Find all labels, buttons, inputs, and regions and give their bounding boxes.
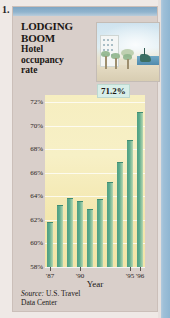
headline-line-2: BOOM — [21, 33, 93, 45]
y-axis-tick-label: 70% — [15, 122, 43, 130]
bar — [97, 199, 103, 267]
bar-cap — [127, 140, 133, 141]
figure-root: 1. LODGING BOOM Hotel occupancy rate — [0, 0, 170, 318]
y-axis-tick-label: 66% — [15, 169, 43, 177]
y-axis-tick-label: 62% — [15, 216, 43, 224]
x-axis-tick-label: '87 — [46, 272, 54, 280]
palm-trunk — [105, 56, 107, 69]
boat-icon — [140, 54, 151, 62]
y-axis-labels: 72%70%68%66%64%62%60%58% — [13, 95, 43, 267]
headline-sub-2: occupancy — [21, 55, 93, 66]
bar — [47, 222, 53, 267]
boat-mast — [144, 48, 145, 55]
bar-cap — [87, 209, 93, 210]
bar — [117, 162, 123, 267]
beach-hotel-illustration — [97, 23, 159, 81]
headline-sub-3: rate — [21, 65, 93, 76]
headline-block: LODGING BOOM Hotel occupancy rate — [21, 21, 93, 76]
bar — [57, 205, 63, 267]
item-number: 1. — [2, 4, 10, 15]
x-axis-tick-label: '96 — [136, 272, 144, 280]
plot-area — [45, 95, 145, 267]
bar-cap — [107, 182, 113, 183]
y-axis-tick-label: 72% — [15, 98, 43, 106]
headline-line-1: LODGING — [21, 21, 93, 33]
chart-panel: LODGING BOOM Hotel occupancy rate — [13, 7, 157, 311]
x-axis-tick — [50, 267, 51, 271]
bar — [127, 140, 133, 267]
headline-sub-1: Hotel — [21, 44, 93, 55]
bar-cap — [137, 112, 143, 113]
bar-cap — [67, 198, 73, 199]
palm-trunk — [115, 58, 117, 69]
panel-top-band — [13, 7, 157, 16]
x-axis-tick — [130, 267, 131, 271]
bar-cap — [57, 205, 63, 206]
bar-cap — [47, 222, 53, 223]
gridline — [45, 126, 145, 127]
source-text: U.S. Travel — [44, 289, 80, 298]
bar-cap — [77, 201, 83, 202]
gridline — [45, 102, 145, 103]
x-axis-title: Year — [45, 279, 145, 289]
x-axis-tick — [80, 267, 81, 271]
bar — [77, 201, 83, 267]
bar — [87, 209, 93, 267]
bar-chart: 72%70%68%66%64%62%60%58% 71.2% Year '87'… — [13, 87, 157, 277]
bar — [67, 198, 73, 268]
source-note: Source: U.S. Travel Data Center — [21, 289, 141, 307]
bar — [107, 182, 113, 267]
x-axis-tick-label: '90 — [76, 272, 84, 280]
y-axis-tick-label: 64% — [15, 192, 43, 200]
bar-cap — [97, 199, 103, 200]
x-axis-tick-label: '95 — [126, 272, 134, 280]
value-callout: 71.2% — [97, 84, 130, 98]
palm-trunk — [127, 59, 129, 69]
source-line-2: Data Center — [21, 298, 57, 307]
y-axis-tick-label: 68% — [15, 145, 43, 153]
bar — [137, 112, 143, 268]
y-axis-tick-label: 58% — [15, 263, 43, 271]
bar-cap — [117, 162, 123, 163]
source-label: Source: — [21, 289, 44, 298]
y-axis-tick-label: 60% — [15, 239, 43, 247]
x-axis-tick — [140, 267, 141, 271]
